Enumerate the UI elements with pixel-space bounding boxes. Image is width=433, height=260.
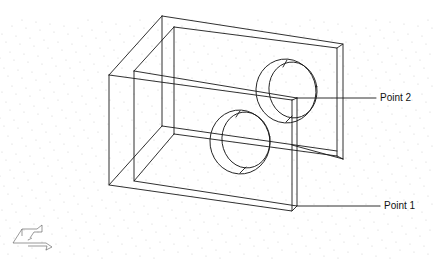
bracket-wireframe <box>109 16 380 211</box>
front-corner-bottom <box>292 206 297 211</box>
base-floor-line-3 <box>292 145 343 159</box>
base-floor-line-1 <box>162 126 337 151</box>
top-left-diagonal-outer <box>109 16 162 75</box>
ucs-axis-icon <box>13 225 52 250</box>
wireframe-drawing <box>0 0 433 260</box>
point-1-label: Point 1 <box>384 201 415 211</box>
front-plate-inner <box>134 71 297 206</box>
base-floor-line-2 <box>174 134 337 156</box>
top-left-diagonal-inner <box>134 27 174 71</box>
drawing-canvas[interactable]: Point 2 Point 1 <box>0 0 433 260</box>
point-2-label: Point 2 <box>380 93 411 103</box>
dot-grid <box>0 19 433 258</box>
bottom-left-diagonal-inner <box>134 134 174 181</box>
front-plate-outer <box>109 75 292 211</box>
lower-hole-inner <box>218 109 273 171</box>
bottom-left-diagonal-outer <box>109 126 162 185</box>
back-plate-top-thickness <box>337 44 343 48</box>
